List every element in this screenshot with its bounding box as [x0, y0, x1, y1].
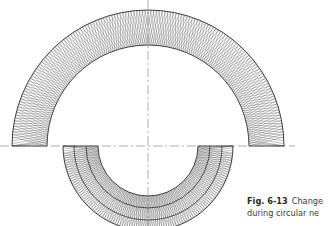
caption-line-1: Change [292, 196, 323, 206]
caption-line-2: during circular ne [247, 208, 333, 220]
figure-caption: Fig. 6-13Change during circular ne [247, 196, 333, 219]
figure-label: Fig. 6-13 [247, 196, 288, 206]
braid-ring-figure [0, 0, 333, 226]
